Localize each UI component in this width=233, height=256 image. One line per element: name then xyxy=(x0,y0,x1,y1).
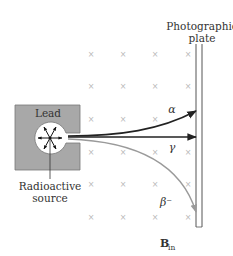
field-into-page-icon: × xyxy=(88,50,95,59)
field-into-page-icon: × xyxy=(88,180,95,189)
field-into-page-icon: × xyxy=(120,148,127,157)
radioactive-decay-diagram: × × × × × × × × × × × × × × × × × × × × … xyxy=(0,0,233,256)
alpha-label: α xyxy=(168,103,176,116)
field-into-page-icon: × xyxy=(88,82,95,91)
field-into-page-icon: × xyxy=(120,82,127,91)
field-into-page-icon: × xyxy=(185,50,192,59)
field-into-page-icon: × xyxy=(185,148,192,157)
magnetic-field-marks: × × × × × × × × × × × × × × × × × × × × … xyxy=(88,50,192,222)
radioactive-source-dot xyxy=(49,137,52,140)
field-into-page-icon: × xyxy=(152,115,159,124)
field-into-page-icon: × xyxy=(120,50,127,59)
beta-minus-label: β⁻ xyxy=(159,196,172,209)
field-into-page-icon: × xyxy=(88,115,95,124)
field-into-page-icon: × xyxy=(185,180,192,189)
source-label-line1: Radioactive xyxy=(19,180,82,192)
field-into-page-icon: × xyxy=(152,148,159,157)
plate-label-line1: Photographic xyxy=(166,20,233,32)
photographic-plate xyxy=(196,44,202,227)
field-into-page-icon: × xyxy=(185,82,192,91)
gamma-label: γ xyxy=(169,141,176,154)
source-label-line2: source xyxy=(32,192,68,204)
field-into-page-icon: × xyxy=(120,213,127,222)
field-into-page-icon: × xyxy=(120,180,127,189)
field-into-page-icon: × xyxy=(120,115,127,124)
field-into-page-icon: × xyxy=(152,82,159,91)
field-label-subscript: in xyxy=(168,243,175,252)
field-into-page-icon: × xyxy=(152,50,159,59)
plate-label-line2: plate xyxy=(189,32,216,44)
field-into-page-icon: × xyxy=(152,180,159,189)
field-into-page-icon: × xyxy=(88,213,95,222)
field-into-page-icon: × xyxy=(88,148,95,157)
lead-label: Lead xyxy=(35,107,61,119)
field-into-page-icon: × xyxy=(185,213,192,222)
field-into-page-icon: × xyxy=(152,213,159,222)
